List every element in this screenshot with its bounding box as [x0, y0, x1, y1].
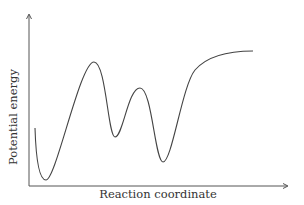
energy-profile-chart: [0, 0, 304, 205]
y-axis: [27, 14, 32, 186]
y-axis-label: Potential energy: [6, 69, 20, 165]
energy-curve: [35, 51, 253, 180]
x-axis-label: Reaction coordinate: [0, 187, 304, 201]
